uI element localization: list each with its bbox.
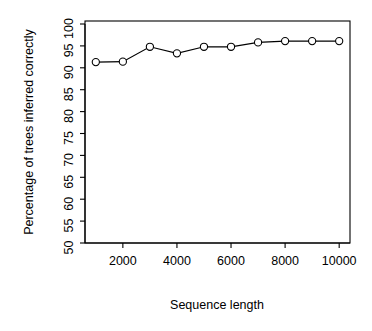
x-tick-label: 8000 [271, 254, 299, 268]
data-point-marker [336, 37, 343, 44]
data-point-marker [173, 50, 180, 57]
y-tick-label: 70 [62, 153, 76, 167]
data-point-marker [309, 37, 316, 44]
y-tick-label: 75 [62, 131, 76, 145]
chart-background [0, 0, 372, 331]
y-tick-label: 90 [62, 65, 76, 79]
y-tick-label: 85 [62, 87, 76, 101]
y-tick-labels: 50556065707580859095100 [62, 18, 76, 254]
data-point-marker [119, 58, 126, 65]
data-point-marker [92, 59, 99, 66]
y-axis-title: Percentage of trees inferred correctly [22, 28, 36, 234]
x-tick-label: 10000 [322, 254, 357, 268]
y-tick-label: 100 [62, 18, 76, 39]
y-tick-label: 55 [62, 219, 76, 233]
data-point-marker [282, 37, 289, 44]
y-tick-label: 60 [62, 197, 76, 211]
x-tick-label: 6000 [217, 254, 245, 268]
x-tick-label: 4000 [163, 254, 191, 268]
data-point-marker [227, 43, 234, 50]
y-tick-label: 95 [62, 43, 76, 57]
data-point-marker [146, 43, 153, 50]
x-tick-label: 2000 [109, 254, 137, 268]
data-point-marker [254, 39, 261, 46]
data-point-marker [200, 43, 207, 50]
y-tick-label: 80 [62, 109, 76, 123]
line-chart-canvas: 50556065707580859095100 2000400060008000… [0, 0, 372, 331]
y-tick-label: 65 [62, 175, 76, 189]
x-axis-title: Sequence length [170, 298, 264, 312]
chart-figure: 50556065707580859095100 2000400060008000… [0, 0, 372, 331]
y-tick-label: 50 [62, 241, 76, 255]
